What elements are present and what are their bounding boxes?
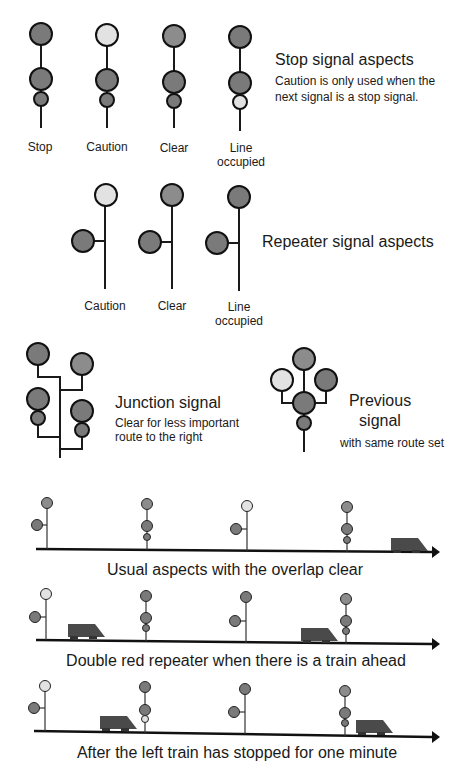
previous-signal-title-1: Previous	[349, 392, 411, 409]
stop-signal-note-2: next signal is a stop signal.	[275, 90, 418, 104]
repeater-signal-caution	[72, 184, 117, 289]
repeater-signal-line-occupied	[206, 186, 250, 291]
middle-lamp	[30, 68, 52, 90]
train	[301, 628, 338, 643]
label-line: Line	[230, 141, 253, 155]
junction-signal	[27, 343, 93, 458]
scenario-3-caption: After the left train has stopped for one…	[77, 744, 397, 761]
scenario-2	[30, 589, 441, 651]
repeater-label-clear: Clear	[158, 299, 187, 313]
train	[68, 624, 105, 639]
stop-signal-stop	[30, 23, 52, 128]
label-occupied: occupied	[217, 155, 265, 169]
repeater-label-line: Line	[228, 300, 251, 314]
train	[100, 716, 137, 731]
stop-signal-note-1: Caution is only used when the	[275, 74, 435, 88]
stop-signal-title: Stop signal aspects	[275, 51, 414, 68]
junction-signal-title: Junction signal	[115, 394, 221, 411]
label-caution: Caution	[86, 140, 127, 154]
label-stop: Stop	[28, 140, 53, 154]
stop-signal-clear	[163, 25, 185, 128]
previous-signal-note: with same route set	[339, 436, 445, 450]
previous-signal-title-2: signal	[359, 412, 401, 429]
repeater-label-caution: Caution	[84, 299, 125, 313]
label-clear: Clear	[160, 141, 189, 155]
scenario-2-caption: Double red repeater when there is a trai…	[66, 652, 406, 669]
repeater-signal-title: Repeater signal aspects	[262, 233, 434, 250]
stop-signal-caution	[96, 24, 118, 128]
scenario-3	[29, 681, 441, 744]
repeater-label-occupied: occupied	[215, 314, 263, 328]
train	[391, 538, 428, 553]
scenario-1-caption: Usual aspects with the overlap clear	[107, 561, 364, 578]
previous-signal	[271, 348, 337, 452]
repeater-signal-clear	[139, 184, 183, 289]
signal-diagram: Stop Caution Clear Line occupied Stop si…	[0, 0, 468, 783]
train	[356, 720, 393, 735]
junction-signal-note-1: Clear for less important	[115, 416, 240, 430]
top-lamp	[30, 23, 52, 45]
scenario-1	[32, 498, 441, 559]
junction-signal-note-2: route to the right	[115, 430, 203, 444]
small-lamp	[34, 92, 48, 106]
stop-signal-line-occupied	[229, 26, 251, 131]
